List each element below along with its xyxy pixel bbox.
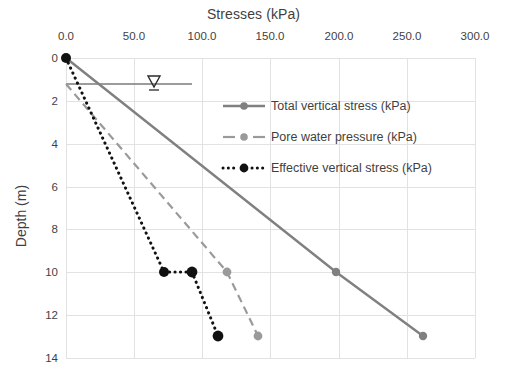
series-effective-vertical-stress	[61, 53, 223, 341]
stress-depth-chart: Stresses (kPa) 0.0 50.0 100.0 150.0 200.…	[0, 0, 507, 386]
plot-area	[0, 0, 507, 386]
legend-swatch-dotted-line-icon	[221, 161, 267, 175]
water-table-annotation	[66, 76, 192, 90]
legend-swatch-dashed-line-icon	[221, 130, 267, 144]
legend-item-pore-water-pressure[interactable]: Pore water pressure (kPa)	[221, 121, 471, 152]
legend-label-total-vertical-stress: Total vertical stress (kPa)	[271, 99, 411, 113]
legend-item-total-vertical-stress[interactable]: Total vertical stress (kPa)	[221, 90, 471, 121]
legend-item-effective-vertical-stress[interactable]: Effective vertical stress (kPa)	[221, 152, 471, 183]
legend-swatch-solid-line-icon	[221, 99, 267, 113]
legend-label-effective-vertical-stress: Effective vertical stress (kPa)	[271, 161, 432, 175]
chart-legend: Total vertical stress (kPa) Pore water p…	[221, 90, 471, 183]
legend-label-pore-water-pressure: Pore water pressure (kPa)	[271, 130, 417, 144]
